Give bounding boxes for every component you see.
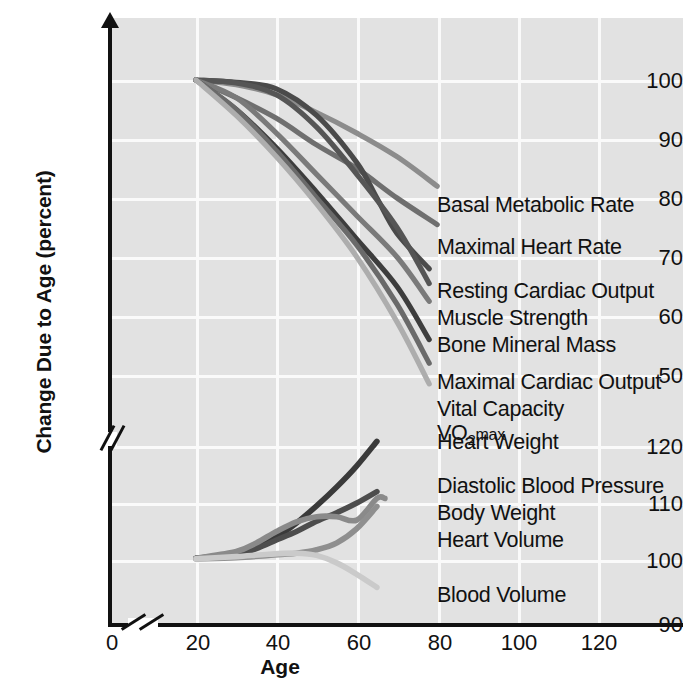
x-tick-40: 40 — [248, 630, 308, 656]
series-label-maximal-cardiac-output: Maximal Cardiac Output — [437, 370, 661, 395]
x-tick-80: 80 — [410, 630, 470, 656]
series-label-heart-weight: Heart Weight — [437, 430, 558, 455]
series-label-vital-capacity: Vital Capacity — [437, 397, 564, 422]
chart-figure: 100 90 80 70 60 50 120 110 100 90 0 20 4… — [0, 0, 683, 690]
x-tick-100: 100 — [489, 630, 549, 656]
series-label-bone-mineral-mass: Bone Mineral Mass — [437, 333, 616, 358]
y-axis-lower — [108, 444, 112, 625]
series-label-diastolic-blood-pressure: Diastolic Blood Pressure — [437, 474, 664, 499]
x-tick-120: 120 — [569, 630, 629, 656]
curve-blood-volume — [196, 553, 377, 587]
series-label-body-weight: Body Weight — [437, 501, 555, 526]
x-tick-60: 60 — [329, 630, 389, 656]
y-axis-arrow-icon — [101, 12, 119, 28]
y-tick-60: 60 — [579, 304, 683, 330]
y-tick-100-lower: 100 — [579, 548, 683, 574]
y-tick-90: 90 — [579, 127, 683, 153]
series-label-maximal-heart-rate: Maximal Heart Rate — [437, 235, 622, 260]
curve-heart-weight — [196, 441, 377, 558]
series-label-heart-volume: Heart Volume — [437, 528, 564, 553]
x-axis-title: Age — [0, 655, 560, 679]
y-tick-120: 120 — [579, 434, 683, 460]
y-axis-upper — [108, 22, 112, 434]
x-tick-0: 0 — [82, 630, 142, 656]
series-label-blood-volume: Blood Volume — [437, 583, 566, 608]
y-tick-100: 100 — [579, 68, 683, 94]
y-axis-title: Change Due to Age (percent) — [32, 142, 56, 482]
series-label-muscle-strength: Muscle Strength — [437, 306, 588, 331]
x-tick-20: 20 — [168, 630, 228, 656]
series-label-resting-cardiac-output: Resting Cardiac Output — [437, 279, 654, 304]
series-label-basal-metabolic-rate: Basal Metabolic Rate — [437, 193, 634, 218]
